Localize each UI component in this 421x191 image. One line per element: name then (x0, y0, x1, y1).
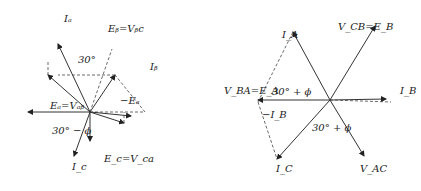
label-angle-top: 30° + ϕ (272, 86, 311, 97)
label-minus-ea: −Eₐ (120, 95, 140, 106)
label-eb-vbc: Eᵦ=Vᵦc (107, 23, 144, 34)
label-30-minus-phi: 30° − ϕ (52, 125, 91, 136)
right-phasor-diagram: V_BA=E_A V_CB=E_B V_AC I_A I_B I_C −I_B … (224, 21, 416, 175)
label-vba-ea: V_BA=E_A (224, 85, 279, 97)
label-ib-right: I_B (399, 85, 416, 97)
label-minus-ib: −I_B (262, 109, 287, 121)
left-phasor-diagram: Eₐ=Vₐᵦ Eᵦ=Vᵦc E_c=V_ca −Eₐ Iₐ Iᵦ I_c 30°… (28, 13, 158, 173)
label-ic: I_c (71, 161, 87, 173)
label-angle-30: 30° (78, 54, 96, 65)
label-vac: V_AC (360, 163, 387, 175)
phasor-diagrams: Eₐ=Vₐᵦ Eᵦ=Vᵦc E_c=V_ca −Eₐ Iₐ Iᵦ I_c 30°… (0, 0, 421, 191)
label-ib: Iᵦ (149, 61, 158, 72)
label-ic-right: I_C (275, 163, 293, 175)
label-ec-vca: E_c=V_ca (103, 153, 154, 165)
label-ea-vab: Eₐ=Vₐᵦ (49, 100, 84, 111)
phasor-diagram-figure: Eₐ=Vₐᵦ Eᵦ=Vᵦc E_c=V_ca −Eₐ Iₐ Iᵦ I_c 30°… (0, 0, 421, 191)
label-ia: Iₐ (63, 13, 72, 24)
label-ia-right: I_A (281, 29, 298, 41)
label-angle-bottom: 30° + ϕ (312, 122, 351, 133)
label-vcb-eb: V_CB=E_B (338, 21, 393, 33)
